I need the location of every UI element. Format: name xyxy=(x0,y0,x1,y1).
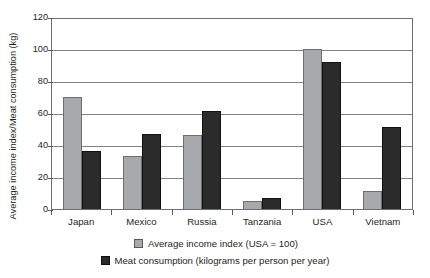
legend-swatch-icon-series-1 xyxy=(101,256,110,265)
x-axis-category-label: Tanzania xyxy=(232,214,292,230)
legend-item-meat-consumption: Meat consumption (kilograms per person p… xyxy=(0,252,430,269)
x-axis-category-label: Vietnam xyxy=(353,214,413,230)
y-axis-tick-label: 60 xyxy=(22,109,48,118)
y-axis-tick-label: 0 xyxy=(22,205,48,214)
y-axis-tick-label: 40 xyxy=(22,141,48,150)
x-axis-category-labels: JapanMexicoRussiaTanzaniaUSAVietnam xyxy=(51,214,413,230)
bar[interactable] xyxy=(262,198,281,209)
y-axis-tick-label: 120 xyxy=(22,13,48,22)
x-tick-mark xyxy=(413,210,414,215)
bar[interactable] xyxy=(123,156,142,209)
bar-group xyxy=(172,19,232,209)
y-axis-tick-label: 80 xyxy=(22,77,48,86)
bar[interactable] xyxy=(202,111,221,209)
bar[interactable] xyxy=(82,151,101,209)
bar-group xyxy=(232,19,292,209)
chart-legend: Average income index (USA = 100) Meat co… xyxy=(0,235,430,269)
x-axis-category-label: Japan xyxy=(51,214,111,230)
bar[interactable] xyxy=(322,62,341,209)
bar-group xyxy=(52,19,112,209)
bars-layer xyxy=(52,19,412,209)
bar[interactable] xyxy=(363,191,382,209)
y-axis-tick-label: 100 xyxy=(22,45,48,54)
y-axis-tick-label: 20 xyxy=(22,173,48,182)
bar[interactable] xyxy=(303,49,322,209)
y-axis-tick-labels: 020406080100120 xyxy=(22,18,48,210)
legend-swatch-icon-series-0 xyxy=(134,239,143,248)
legend-label-series-1: Meat consumption (kilograms per person p… xyxy=(115,255,330,266)
bar[interactable] xyxy=(63,97,82,209)
x-axis-category-label: Russia xyxy=(172,214,232,230)
y-axis-title: Average income index/Meat consumption (k… xyxy=(6,12,20,240)
x-axis-category-label: Mexico xyxy=(111,214,171,230)
legend-label-series-0: Average income index (USA = 100) xyxy=(148,238,298,249)
bar-group xyxy=(352,19,412,209)
bar-group xyxy=(112,19,172,209)
bar[interactable] xyxy=(243,201,262,209)
legend-item-average-income-index: Average income index (USA = 100) xyxy=(0,235,430,252)
x-axis-category-label: USA xyxy=(292,214,352,230)
bar-chart: Average income index/Meat consumption (k… xyxy=(0,0,430,278)
plot-area xyxy=(51,18,413,210)
bar-group xyxy=(292,19,352,209)
bar[interactable] xyxy=(183,135,202,209)
bar[interactable] xyxy=(382,127,401,209)
bar[interactable] xyxy=(142,134,161,209)
